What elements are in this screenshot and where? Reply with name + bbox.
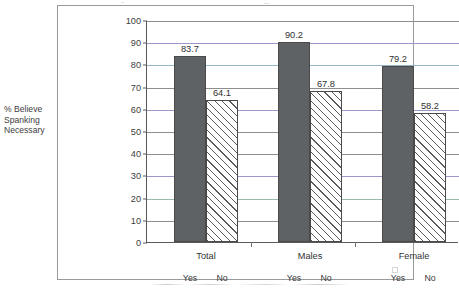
x-axis-group-separator — [251, 242, 252, 247]
x-subtick-label-no: No — [216, 273, 227, 283]
scan-speck — [264, 3, 269, 4]
y-tick-label: 90 — [115, 38, 147, 48]
x-subtick-label-yes: Yes — [391, 273, 405, 283]
y-tick-label: 100 — [115, 16, 147, 26]
bar-female-yes[interactable] — [382, 66, 414, 242]
y-tick-label: 0 — [115, 238, 147, 248]
y-tick-label: 40 — [115, 149, 147, 159]
x-subtick-label-yes: Yes — [287, 273, 301, 283]
y-axis-label: % Believe Spanking Necessary — [4, 104, 56, 136]
bar-value-label: 67.8 — [317, 79, 335, 89]
chart-frame: 100908070605040302010083.7Yes64.1NoTotal… — [57, 5, 414, 280]
bar-value-label: 83.7 — [181, 44, 199, 54]
y-tick-label: 10 — [115, 216, 147, 226]
bar-total-yes[interactable] — [174, 56, 206, 242]
scan-artifact-line — [150, 284, 350, 285]
y-tick-label: 50 — [115, 127, 147, 137]
bar-female-no[interactable] — [414, 113, 446, 242]
x-group-label-males: Males — [298, 251, 323, 261]
bar-males-yes[interactable] — [278, 42, 310, 242]
x-axis-group-separator — [355, 242, 356, 247]
scan-speck — [121, 2, 124, 3]
y-tick-label: 20 — [115, 194, 147, 204]
y-tick-label: 60 — [115, 105, 147, 115]
x-subtick-label-no: No — [424, 273, 435, 283]
bar-value-label: 64.1 — [213, 88, 231, 98]
x-group-label-female: Female — [399, 251, 430, 261]
bar-value-label: 58.2 — [421, 101, 439, 111]
x-subtick-label-no: No — [320, 273, 331, 283]
y-tick-label: 70 — [115, 83, 147, 93]
x-group-label-total: Total — [196, 251, 215, 261]
bar-value-label: 79.2 — [389, 54, 407, 64]
bar-total-no[interactable] — [206, 100, 238, 242]
gridline — [147, 21, 459, 22]
plot-area: 100908070605040302010083.7Yes64.1NoTotal… — [146, 21, 458, 243]
y-tick-label: 30 — [115, 171, 147, 181]
y-tick-label: 80 — [115, 60, 147, 70]
scan-speck — [392, 267, 398, 273]
bar-value-label: 90.2 — [285, 30, 303, 40]
bar-males-no[interactable] — [310, 91, 342, 242]
x-subtick-label-yes: Yes — [183, 273, 197, 283]
